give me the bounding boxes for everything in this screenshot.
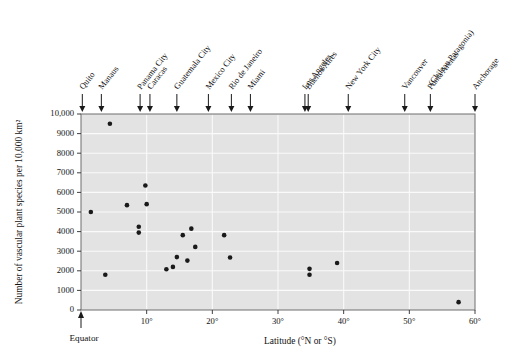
data-point <box>171 265 176 270</box>
x-tick-label: 40° <box>338 316 351 326</box>
equator-arrow-head <box>78 311 84 318</box>
data-point <box>222 233 227 238</box>
city-arrow-head <box>147 106 153 112</box>
data-point <box>125 203 130 208</box>
data-point <box>335 261 340 266</box>
x-tick-label: 10° <box>141 316 154 326</box>
city-marker-layer: QuitoManausPanama CityCaracasGuatemala C… <box>77 28 501 112</box>
x-tick-label: 20° <box>206 316 219 326</box>
city-arrow-head <box>345 106 351 112</box>
data-point <box>175 255 180 260</box>
y-axis-title-group: Number of vascular plant species per 10,… <box>14 120 24 305</box>
city-label-13: (Chilean Patagonia) <box>426 28 476 88</box>
x-axis-title: Latitude (°N or °S) <box>264 336 336 347</box>
data-point <box>193 245 198 250</box>
data-point <box>189 226 194 231</box>
y-tick-label: 2000 <box>57 265 74 275</box>
data-point <box>136 224 141 229</box>
city-arrow-head <box>472 106 478 112</box>
y-tick-label: 10,000 <box>50 108 74 118</box>
data-point <box>89 210 94 215</box>
city-label-0: Quito <box>77 70 97 91</box>
city-arrow-head <box>137 106 143 112</box>
city-arrow-head <box>205 106 211 112</box>
city-arrow-head <box>247 106 253 112</box>
data-point <box>456 300 461 305</box>
data-point <box>180 233 185 238</box>
figure-container: 010002000300040005000600070008000900010,… <box>0 0 527 356</box>
city-arrow-head <box>98 106 104 112</box>
city-arrow-head <box>427 106 433 112</box>
data-point <box>307 272 312 277</box>
y-tick-label: 8000 <box>57 148 74 158</box>
y-tick-label: 4000 <box>57 226 74 236</box>
city-arrow-head <box>402 106 408 112</box>
y-axis-title: Number of vascular plant species per 10,… <box>14 120 24 305</box>
data-point <box>307 267 312 272</box>
scatter-chart: 010002000300040005000600070008000900010,… <box>0 0 527 356</box>
y-tick-label: 9000 <box>57 128 74 138</box>
y-tick-label: 0 <box>70 304 74 314</box>
y-axis-ticks: 010002000300040005000600070008000900010,… <box>50 108 81 314</box>
city-arrow-head <box>228 106 234 112</box>
y-tick-label: 5000 <box>57 206 74 216</box>
city-label-10: New York City <box>343 44 383 91</box>
data-point <box>164 267 169 272</box>
data-point <box>228 255 233 260</box>
y-tick-label: 7000 <box>57 167 74 177</box>
equator-marker-group: Equator <box>69 311 98 343</box>
y-tick-label: 6000 <box>57 187 74 197</box>
x-tick-label: 30° <box>272 316 285 326</box>
data-point <box>103 272 108 277</box>
data-point <box>136 230 141 235</box>
data-point <box>185 258 190 263</box>
y-tick-label: 1000 <box>57 285 74 295</box>
x-axis-ticks: 10°20°30°40°50°60° <box>141 310 482 326</box>
data-point <box>143 183 148 188</box>
city-label-9: Los Angeles <box>300 52 334 91</box>
city-label-14: Anchorage <box>470 56 501 92</box>
equator-label: Equator <box>69 333 98 343</box>
x-tick-label: 60° <box>469 316 482 326</box>
y-tick-label: 3000 <box>57 246 74 256</box>
city-label-1: Manaus <box>96 64 120 91</box>
data-point <box>144 202 149 207</box>
data-point <box>108 122 113 127</box>
x-tick-label: 50° <box>403 316 416 326</box>
city-arrow-head <box>174 106 180 112</box>
city-arrow-head <box>79 106 85 112</box>
